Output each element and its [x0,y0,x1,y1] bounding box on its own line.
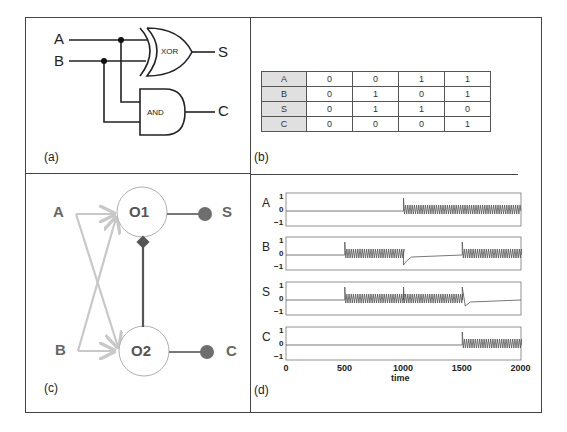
y-tick-label: 1 [279,326,283,335]
x-axis-label: time [391,373,410,383]
x-tick-label: 1500 [452,363,472,373]
y-tick-label: 0 [279,294,283,303]
y-tick-label: −1 [274,307,283,316]
signal-label-b: B [262,240,270,254]
y-tick-label: 0 [279,249,283,258]
y-tick-label: 1 [279,236,283,245]
x-tick-label: 500 [337,363,352,373]
signal-label-c: C [262,330,271,344]
signal-label-s: S [262,285,270,299]
signal-label-a: A [262,196,270,210]
y-tick-label: 0 [279,339,283,348]
x-tick-label: 0 [283,363,288,373]
y-tick-label: 0 [279,205,283,214]
signal-trace-c [286,332,522,348]
signal-trace-a [286,198,521,214]
panel-d-label: (d) [254,383,269,397]
y-tick-label: 1 [279,192,283,201]
signal-trace-s [286,287,521,306]
x-tick-label: 1000 [393,363,413,373]
x-tick-label: 2000 [511,363,531,373]
y-tick-label: 1 [279,281,283,290]
y-tick-label: −1 [274,262,283,271]
y-tick-label: −1 [274,218,283,227]
signal-trace-b [286,242,522,265]
y-tick-label: −1 [274,352,283,361]
